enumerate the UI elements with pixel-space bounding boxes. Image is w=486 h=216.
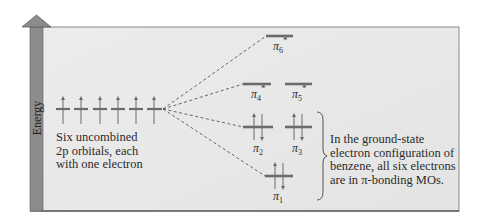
ground-state-annotation: In the ground-stateelectron configuratio… xyxy=(330,133,456,187)
atomic-orbitals-caption: Six uncombined2p orbitals, eachwith one … xyxy=(56,131,143,172)
energy-axis-label: Energy xyxy=(30,88,44,148)
